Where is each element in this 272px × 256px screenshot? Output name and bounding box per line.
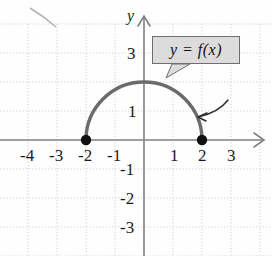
x-tick-label: 3 — [227, 147, 236, 164]
function-label-text: y = f(x) — [152, 36, 240, 64]
y-tick-label: -1 — [120, 161, 134, 178]
scan-artifact-stroke — [30, 8, 56, 27]
y-tick-label: -3 — [120, 219, 134, 236]
endpoint-right-dot — [197, 135, 207, 145]
y-tick-label: -2 — [120, 190, 134, 207]
x-tick-label: -3 — [49, 147, 63, 164]
x-tick-label: 1 — [170, 147, 179, 164]
y-tick-label: 1 — [128, 103, 137, 120]
callout-tail — [166, 64, 190, 78]
endpoint-left-dot — [81, 135, 91, 145]
graph-figure: -4 -3 -2 -1 1 2 3 3 1 -1 -2 -3 y y = f(x… — [0, 0, 272, 256]
y-tick-label: 3 — [127, 45, 136, 62]
x-tick-label: -4 — [20, 147, 34, 164]
x-tick-label: -2 — [78, 147, 92, 164]
x-tick-label: 2 — [198, 147, 207, 164]
y-axis-label: y — [127, 8, 134, 24]
